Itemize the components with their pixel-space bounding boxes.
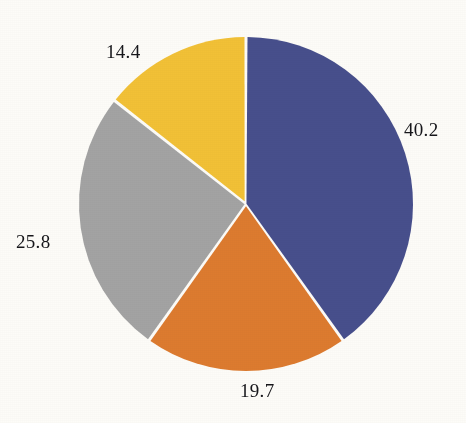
slice-label-orange: 19.7	[240, 381, 274, 400]
slice-label-gray: 25.8	[16, 232, 50, 251]
pie-chart-figure: 40.2 19.7 25.8 14.4	[0, 0, 466, 423]
slice-label-blue: 40.2	[404, 120, 438, 139]
pie-chart-canvas	[0, 0, 466, 423]
slice-label-yellow: 14.4	[106, 42, 140, 61]
